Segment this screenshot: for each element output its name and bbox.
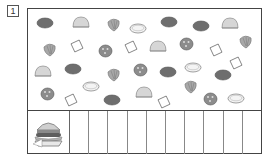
lettuce-icon [106, 17, 121, 32]
onion-icon [129, 23, 147, 34]
cheese-icon [209, 43, 223, 57]
count-box[interactable] [224, 111, 243, 154]
tomato-icon [179, 37, 194, 51]
patty-icon [214, 69, 232, 81]
count-box[interactable] [166, 111, 185, 154]
cheese-icon [157, 95, 171, 109]
onion-icon [227, 93, 245, 104]
count-box[interactable] [185, 111, 204, 154]
count-box[interactable] [89, 111, 108, 154]
patty-icon [36, 17, 54, 29]
cheese-icon [124, 40, 138, 54]
patty-icon [64, 63, 82, 75]
worksheet-frame [27, 8, 262, 154]
problem-number: 1 [7, 5, 19, 17]
patty-icon [192, 20, 210, 32]
tomato-icon [98, 44, 113, 58]
bun-icon [135, 86, 153, 99]
patty-icon [160, 16, 178, 28]
cheese-icon [64, 93, 78, 107]
lettuce-icon [183, 79, 198, 94]
count-box[interactable] [70, 111, 89, 154]
tomato-icon [40, 87, 55, 101]
count-box[interactable] [147, 111, 166, 154]
bun-icon [72, 16, 90, 29]
tomato-icon [133, 63, 148, 77]
count-box[interactable] [108, 111, 127, 154]
lettuce-icon [42, 42, 57, 57]
count-boxes-row [28, 110, 261, 154]
cheese-icon [229, 56, 243, 70]
bun-icon [34, 65, 52, 78]
patty-icon [103, 94, 121, 106]
hamburger-reference-cell [28, 111, 70, 154]
count-box[interactable] [204, 111, 223, 154]
bun-icon [221, 17, 239, 30]
count-box[interactable] [243, 111, 261, 154]
bun-icon [149, 40, 167, 53]
lettuce-icon [238, 34, 253, 49]
patty-icon [159, 66, 177, 78]
onion-icon [82, 81, 100, 92]
ingredient-scatter-area [28, 9, 261, 110]
onion-icon [184, 62, 202, 73]
tomato-icon [203, 92, 218, 106]
hamburger-icon [28, 111, 69, 154]
count-box[interactable] [128, 111, 147, 154]
cheese-icon [70, 39, 84, 53]
lettuce-icon [106, 67, 121, 82]
